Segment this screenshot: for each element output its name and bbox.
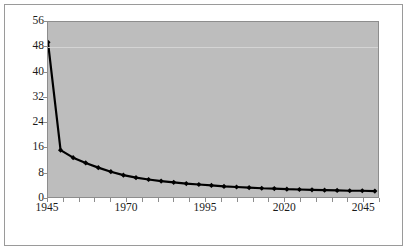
data-point-marker xyxy=(272,186,277,191)
data-point-marker xyxy=(335,188,340,193)
x-axis-tick-label: 1970 xyxy=(115,202,138,214)
data-point-marker xyxy=(171,180,176,185)
data-point-marker xyxy=(284,187,289,192)
data-point-marker xyxy=(159,178,164,183)
y-axis-tick-label: 8 xyxy=(2,167,44,179)
y-axis-tick-label: 16 xyxy=(2,141,44,153)
chart-figure: 08162432404856 19451970199520202045 xyxy=(0,0,408,251)
x-axis-tick-label: 1945 xyxy=(36,202,59,214)
x-axis: 19451970199520202045 xyxy=(0,202,408,222)
data-markers xyxy=(48,40,377,194)
gridline xyxy=(48,47,378,48)
data-point-marker xyxy=(209,183,214,188)
data-point-marker xyxy=(184,181,189,186)
data-point-marker xyxy=(247,185,252,190)
data-point-marker xyxy=(259,186,264,191)
x-axis-tick-label: 2020 xyxy=(273,202,296,214)
data-point-marker xyxy=(234,184,239,189)
data-point-marker xyxy=(108,169,113,174)
y-axis-tick-label: 48 xyxy=(2,40,44,52)
y-axis-tick-label: 40 xyxy=(2,66,44,78)
x-axis-tick-label: 1995 xyxy=(194,202,217,214)
data-point-marker xyxy=(133,175,138,180)
y-axis-tick-label: 32 xyxy=(2,91,44,103)
data-point-marker xyxy=(146,177,151,182)
data-point-marker xyxy=(372,188,377,193)
data-point-marker xyxy=(347,188,352,193)
y-axis-tick-label: 24 xyxy=(2,116,44,128)
plot-area xyxy=(47,21,379,198)
data-point-marker xyxy=(221,184,226,189)
data-point-marker xyxy=(121,173,126,178)
data-point-marker xyxy=(297,187,302,192)
data-point-marker xyxy=(360,188,365,193)
y-axis-tick-label: 56 xyxy=(2,15,44,27)
x-axis-tick-label: 2045 xyxy=(352,202,375,214)
data-point-marker xyxy=(309,187,314,192)
data-point-marker xyxy=(322,188,327,193)
data-point-marker xyxy=(196,182,201,187)
